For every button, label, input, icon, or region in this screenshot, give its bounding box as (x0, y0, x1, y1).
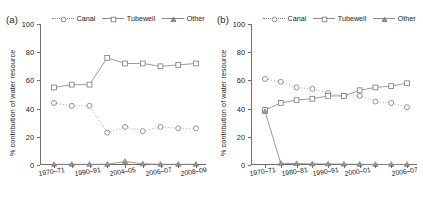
series-line-canal (265, 79, 407, 107)
legend-tubewell-line (102, 15, 124, 22)
data-point-square (294, 98, 299, 103)
y-tick-label: 20 (223, 132, 245, 141)
panel-b-plot-area: 0204060801001970–711980–811990–912000–01… (251, 24, 417, 165)
y-tick (248, 109, 251, 110)
data-point-circle (373, 99, 378, 104)
data-point-square (310, 96, 315, 101)
data-point-square (52, 85, 57, 90)
legend-canal-line (52, 15, 74, 22)
y-tick-label: 40 (12, 104, 34, 113)
data-point-square (176, 62, 181, 67)
x-tick-label: 2000–01 (344, 166, 371, 177)
y-tick-label: 60 (12, 76, 34, 85)
panel-b-series-layer (251, 24, 417, 165)
data-point-circle (52, 100, 57, 105)
data-point-square (87, 82, 92, 87)
y-tick-label: 20 (12, 132, 34, 141)
x-tick (178, 165, 179, 168)
legend-item-other: Other (373, 14, 422, 23)
y-tick-label: 0 (223, 161, 245, 170)
data-point-square (357, 88, 362, 93)
triangle-marker-icon (170, 16, 177, 23)
legend-label-other: Other (398, 14, 416, 23)
x-tick-label: 2006–07 (391, 166, 418, 177)
data-point-circle (69, 103, 74, 108)
y-tick-label: 80 (223, 48, 245, 57)
y-tick (37, 24, 40, 25)
data-point-circle (105, 130, 110, 135)
y-tick-label: 80 (12, 48, 34, 57)
chart-panel-a: (a) % contribution of water resource Can… (0, 0, 211, 201)
panel-b-legend: Canal Tubewell Other (263, 14, 423, 23)
figure-root: (a) % contribution of water resource Can… (0, 0, 423, 201)
data-point-square (69, 82, 74, 87)
data-point-circle (357, 93, 362, 98)
series-line-tubewell (265, 83, 407, 110)
legend-tubewell-line (313, 15, 335, 22)
y-tick (37, 52, 40, 53)
series-line-other (265, 111, 407, 164)
legend-other-line (373, 15, 395, 22)
x-tick-label: 2006–07 (145, 166, 172, 177)
x-tick-label: 1980–81 (281, 166, 308, 177)
circle-marker-icon (271, 16, 278, 23)
x-tick-label: 1990–91 (74, 166, 101, 177)
data-point-square (194, 61, 199, 66)
data-point-circle (389, 100, 394, 105)
data-point-circle (310, 86, 315, 91)
y-tick (248, 80, 251, 81)
x-tick (281, 165, 282, 168)
data-point-square (405, 81, 410, 86)
data-point-circle (278, 79, 283, 84)
x-tick-label: 1990–91 (312, 166, 339, 177)
y-tick-label: 60 (223, 76, 245, 85)
legend-item-tubewell: Tubewell (102, 14, 162, 23)
legend-canal-line (263, 15, 285, 22)
data-point-square (373, 85, 378, 90)
circle-marker-icon (60, 16, 67, 23)
legend-label-tubewell: Tubewell (127, 14, 156, 23)
y-tick (37, 137, 40, 138)
legend-label-other: Other (187, 14, 205, 23)
data-point-circle (140, 129, 145, 134)
x-tick (375, 165, 376, 168)
data-point-circle (123, 124, 128, 129)
y-tick-label: 100 (223, 20, 245, 29)
y-tick (37, 80, 40, 81)
triangle-marker-icon (381, 16, 388, 23)
x-tick (72, 165, 73, 168)
legend-item-canal: Canal (263, 14, 313, 23)
square-marker-icon (321, 16, 328, 23)
x-tick (107, 165, 108, 168)
y-tick-label: 0 (12, 161, 34, 170)
legend-item-tubewell: Tubewell (313, 14, 373, 23)
legend-item-canal: Canal (52, 14, 102, 23)
data-point-circle (158, 124, 163, 129)
data-point-circle (87, 103, 92, 108)
data-point-square (123, 61, 128, 66)
legend-label-tubewell: Tubewell (338, 14, 367, 23)
data-point-square (389, 84, 394, 89)
x-tick (391, 165, 392, 168)
x-tick-label: 1970–71 (249, 166, 276, 177)
data-point-square (278, 101, 283, 106)
y-tick (248, 52, 251, 53)
data-point-square (105, 55, 110, 60)
data-point-triangle (122, 159, 127, 164)
data-point-circle (176, 126, 181, 131)
y-tick (248, 137, 251, 138)
data-point-circle (263, 76, 268, 81)
data-point-square (140, 61, 145, 66)
x-tick (312, 165, 313, 168)
data-point-circle (294, 85, 299, 90)
square-marker-icon (110, 16, 117, 23)
x-tick-label: 2008–09 (180, 166, 207, 177)
panel-a-legend: Canal Tubewell Other (52, 14, 212, 23)
x-tick (344, 165, 345, 168)
x-tick-label: 2004–05 (109, 166, 136, 177)
legend-label-canal: Canal (77, 14, 96, 23)
x-tick-label: 1970–71 (38, 166, 65, 177)
legend-other-line (162, 15, 184, 22)
y-tick (248, 24, 251, 25)
data-point-square (326, 94, 331, 99)
